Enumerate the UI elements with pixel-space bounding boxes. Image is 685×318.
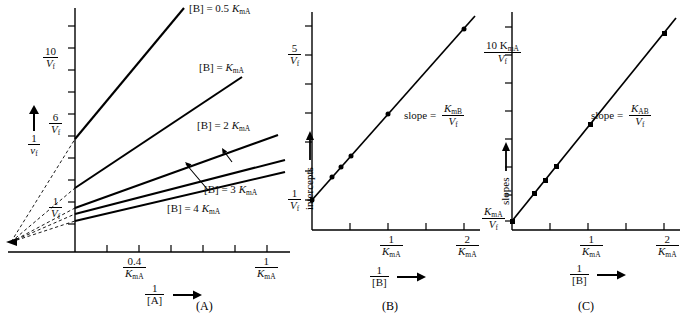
panel-b-ytick-1-den: V [290, 199, 297, 211]
panel-b-xtick-1-num: 1 [380, 234, 403, 245]
panel-a-series-label-1: [B] = KmA [199, 62, 244, 74]
panel-a-y-axis-title: 1 vf [14, 105, 54, 158]
panel-c-x-axis-title: 1 [B] [570, 263, 627, 287]
panel-a-ytick-6-den: V [51, 123, 58, 135]
panel-a-ytick-1-den: V [51, 207, 58, 219]
panel-b-xtick-1-sub: mA [389, 250, 400, 259]
panel-b-point-5 [462, 27, 467, 32]
panel-b-x-ticks [350, 223, 464, 230]
panel-c-point-0 [510, 219, 515, 224]
panel-b-ytick-1-num: 1 [288, 188, 301, 199]
panel-c-point-2 [543, 178, 548, 183]
panel-a-ytick-6-sub: f [58, 128, 61, 137]
panel-c-slope-den-sub: f [642, 120, 645, 129]
panel-c-y-arrow-icon [501, 141, 511, 171]
panel-c-xtick-1-sub: mA [589, 250, 600, 259]
panel-a-y-arrow-icon [28, 105, 40, 131]
panel-a-series-label-0: [B] = 0.5 KmA [189, 3, 250, 15]
panel-c-y-axis-name: slopes [499, 178, 511, 206]
panel-c-ytick-kma-num-wrap: KmA [482, 206, 505, 218]
panel-b-ytick-5-sub: f [297, 59, 300, 68]
panel-c-x-title-den: [B] [570, 274, 589, 286]
panel-a-xtick-04-sub: mA [132, 272, 143, 281]
panel-a-convergence-arrow [6, 238, 17, 246]
panel-a-y-ticks [68, 26, 75, 224]
panel-a-xtick-1-num: 1 [255, 256, 278, 267]
panel-c-ytick-label-kma: KmA Vf [482, 206, 505, 232]
panel-c-ytick-label-10: 10 KmA Vf [484, 40, 521, 66]
figure-root: 1 vf 10 Vf 6 Vf 1 Vf 0.4 KmA 1 KmA [0, 0, 685, 318]
panel-b-x-axis-title: 1 [B] [370, 265, 427, 289]
panel-a-ytick-6-num: 6 [49, 112, 62, 123]
panel-b-y-arrow-icon [305, 130, 315, 160]
panel-a-ytick-label-6: 6 Vf [49, 112, 62, 137]
panel-b-xtick-2-num: 2 [456, 234, 479, 245]
panel-a-y-title-den-sub: f [35, 149, 38, 158]
panel-b-xtick-label-1: 1 KmA [380, 234, 403, 259]
panel-c-slope-text: slope = [591, 110, 623, 121]
panel-a-line-b1 [75, 77, 242, 188]
panel-a-ytick-1-sub: f [58, 212, 61, 221]
panel-a-ytick-10-num: 10 [43, 46, 58, 57]
panel-c-slope-num-sub: AB [638, 107, 648, 116]
panel-b-ytick-label-5: 5 Vf [288, 43, 301, 68]
panel-c-ytick-10-num-sub: mA [508, 44, 519, 53]
panel-c-slope-den: V [635, 115, 642, 127]
panel-a-y-title-num: 1 [28, 133, 39, 144]
panel-c-point-3 [554, 164, 559, 169]
panel-b-ytick-label-1: 1 Vf [288, 188, 301, 213]
panel-c-slope-annotation: slope = KAB Vf [591, 103, 651, 129]
panel-a-xtick-1-sub: mA [264, 272, 275, 281]
panel-a-x-title-num: 1 [145, 283, 164, 294]
panel-c-xtick-2-num: 2 [656, 234, 679, 245]
panel-b-x-title-num: 1 [370, 265, 389, 276]
panel-a-x-axis-title: 1 [A] [145, 283, 203, 307]
panel-c-caption: (C) [578, 299, 594, 314]
panel-b-xtick-2-sub: mA [465, 250, 476, 259]
panel-a-ytick-1-num: 1 [49, 196, 62, 207]
panel-b-point-4 [386, 112, 391, 117]
panel-c-x-arrow-icon [597, 269, 627, 280]
panel-b-ytick-1-sub: f [297, 204, 300, 213]
panel-c-ytick-kma-sub: f [495, 223, 498, 232]
panel-a-series-label-4: [B] = 4 KmA [167, 203, 220, 215]
panel-b-y-axis-title: intercepts [303, 130, 315, 210]
panel-b-caption: (B) [382, 299, 398, 314]
panel-a-line-b05 [75, 8, 184, 139]
panel-c-xtick-label-1: 1 KmA [580, 234, 603, 259]
panel-b-slope-num-sub: mB [451, 107, 462, 116]
panel-b-slope-den-sub: f [455, 120, 458, 129]
panel-c-x-title-num: 1 [570, 263, 589, 274]
panel-a-x-title-den: [A] [145, 294, 164, 306]
panel-a-ytick-10-sub: f [53, 62, 56, 71]
panel-a-xtick-label-04: 0.4 KmA [123, 256, 146, 281]
panel-c-ytick-kma-num-sub: mA [491, 210, 502, 219]
panel-c-xtick-1-num: 1 [580, 234, 603, 245]
panel-a-series-label-2: [B] = 2 KmA [197, 120, 250, 132]
panel-b-y-axis-name: intercepts [303, 167, 315, 210]
panel-a-xtick-04-num: 0.4 [123, 256, 146, 267]
panel-c-ytick-10-sub: f [505, 57, 508, 66]
panel-b-point-2 [339, 165, 344, 170]
panel-b-x-title-den: [B] [370, 276, 389, 288]
panel-c-y-axis-title: slopes [499, 141, 511, 205]
panel-b-xtick-label-2: 2 KmA [456, 234, 479, 259]
panel-c-ytick-10-num-wrap: 10 KmA [484, 40, 521, 52]
panel-a-ytick-label-1: 1 Vf [49, 196, 62, 221]
panel-a-xtick-label-1: 1 KmA [255, 256, 278, 281]
panel-c-ytick-10-den: V [498, 52, 505, 64]
panel-a-caption: (A) [196, 299, 213, 314]
panel-c-point-1 [532, 191, 537, 196]
panel-a-x-ticks [107, 245, 267, 252]
panel-a-ytick-10-den: V [46, 57, 53, 69]
panel-a-series-label-3: [B] = 3 KmA [204, 184, 257, 196]
panel-b-ytick-5-num: 5 [288, 43, 301, 54]
panel-b-slope-annotation: slope = KmB Vf [404, 103, 464, 129]
panel-b-slope-text: slope = [404, 110, 436, 121]
panel-c-point-5 [662, 31, 667, 36]
panel-b-x-arrow-icon [397, 271, 427, 282]
panel-b-ytick-5-den: V [290, 54, 297, 66]
panel-c-ytick-10-num: 10 K [486, 39, 508, 51]
panel-c-xtick-label-2: 2 KmA [656, 234, 679, 259]
panel-c-x-ticks [550, 223, 664, 230]
